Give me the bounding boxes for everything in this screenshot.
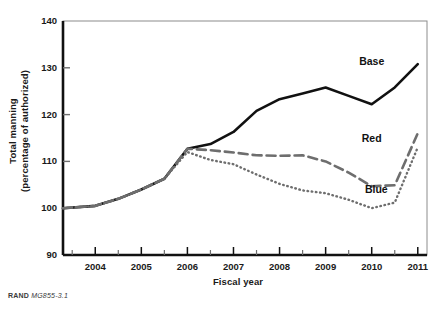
x-tick-label: 2005 — [121, 261, 161, 272]
x-tick-label: 2007 — [213, 261, 253, 272]
y-tick-label: 140 — [31, 15, 57, 26]
y-tick-label: 130 — [31, 62, 57, 73]
x-tick-label: 2004 — [75, 261, 115, 272]
source-note-id: MG855-3.1 — [31, 292, 68, 299]
x-axis-title: Fiscal year — [0, 276, 442, 287]
x-tick-label: 2008 — [260, 261, 300, 272]
source-note: RAND MG855-3.1 — [8, 292, 68, 299]
figure-container: Total manning (percentage of authorized)… — [0, 0, 442, 314]
y-axis-title: Total manning (percentage of authorized) — [7, 70, 31, 192]
y-axis-title-line2: (percentage of authorized) — [19, 70, 31, 192]
y-axis-title-line1: Total manning — [7, 70, 19, 192]
source-note-prefix: RAND — [8, 292, 29, 299]
series-label-red: Red — [362, 132, 382, 144]
x-tick-label: 2006 — [167, 261, 207, 272]
x-tick-label: 2011 — [398, 261, 438, 272]
series-label-blue: Blue — [365, 183, 388, 195]
series-label-base: Base — [359, 55, 384, 67]
x-tick-label: 2010 — [352, 261, 392, 272]
y-tick-label: 90 — [31, 249, 57, 260]
y-tick-label: 100 — [31, 202, 57, 213]
series-line-red — [63, 133, 418, 208]
y-axis-title-wrapper: Total manning (percentage of authorized) — [6, 0, 32, 262]
x-axis-title-text: Fiscal year — [179, 276, 263, 287]
x-tick-label: 2009 — [306, 261, 346, 272]
y-tick-label: 120 — [31, 109, 57, 120]
y-tick-label: 110 — [31, 155, 57, 166]
series-line-blue — [63, 147, 418, 208]
